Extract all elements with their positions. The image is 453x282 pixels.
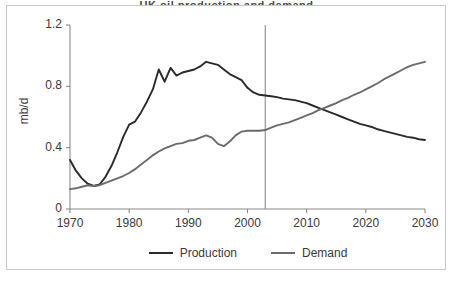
x-tick-label: 2000 bbox=[226, 216, 270, 230]
y-tick-label: 1.2 bbox=[30, 17, 62, 31]
x-tick-label: 1990 bbox=[166, 216, 210, 230]
legend-item-production: Production bbox=[149, 246, 237, 260]
y-axis-label: mb/d bbox=[17, 81, 31, 141]
legend-label-production: Production bbox=[180, 246, 237, 260]
y-tick-label: 0.4 bbox=[30, 140, 62, 154]
chart-figure: UK oil production and demand mb/d 00.40.… bbox=[0, 0, 453, 282]
legend-item-demand: Demand bbox=[271, 246, 347, 260]
x-tick-label: 2020 bbox=[344, 216, 388, 230]
legend-swatch-demand bbox=[271, 252, 295, 254]
y-tick-label: 0 bbox=[30, 201, 62, 215]
x-tick-label: 1980 bbox=[107, 216, 151, 230]
line-chart-canvas bbox=[0, 0, 453, 282]
x-tick-label: 2010 bbox=[285, 216, 329, 230]
legend-label-demand: Demand bbox=[302, 246, 347, 260]
x-tick-label: 1970 bbox=[48, 216, 92, 230]
y-tick-label: 0.8 bbox=[30, 78, 62, 92]
x-tick-label: 2030 bbox=[403, 216, 447, 230]
legend-swatch-production bbox=[149, 252, 173, 254]
chart-legend: Production Demand bbox=[70, 246, 426, 260]
